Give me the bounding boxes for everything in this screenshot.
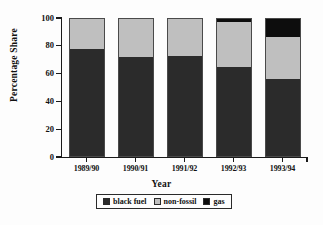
bar-1990-91 [118,18,154,157]
x-axis-tick [233,157,234,162]
y-axis-tick-label: 100 [12,14,54,23]
bar-segment-blackfuel [217,67,251,156]
bar-segment-nonfossil [70,19,104,49]
y-axis-title: Percentage Share [9,5,19,125]
bar-segment-nonfossil [119,19,153,57]
legend-label: gas [213,198,224,206]
y-axis-tick-label: 80 [12,41,54,50]
y-axis-tick-label: 40 [12,97,54,106]
bar-segment-nonfossil [217,22,251,67]
y-axis-tick-label: 60 [12,69,54,78]
bar-segment-blackfuel [70,49,104,156]
bar-segment-blackfuel [119,57,153,156]
legend-label: non-fossil [164,198,197,206]
x-axis-title: Year [0,179,323,189]
bar-segment-blackfuel [168,56,202,156]
legend-swatch-black-fuel [103,198,110,205]
bar-segment-blackfuel [266,79,300,156]
legend-swatch-non-fossil [154,198,161,205]
bar-1989-90 [69,18,105,157]
bar-1991-92 [167,18,203,157]
y-axis-tick-label: 20 [12,125,54,134]
bar-segment-gas [266,19,300,37]
legend-item-black-fuel: black fuel [103,198,147,206]
legend-label: black fuel [113,198,147,206]
chart-legend: black fuelnon-fossilgas [96,194,232,209]
chart-figure: Percentage Share 020406080100 1989/90199… [0,0,323,225]
x-axis-tick [86,157,87,162]
legend-item-non-fossil: non-fossil [154,198,197,206]
x-axis-tick-end [306,157,307,162]
x-axis-tick [184,157,185,162]
x-axis-tick-label: 1993/94 [253,165,313,173]
legend-swatch-gas [203,198,210,205]
legend-item-gas: gas [203,198,224,206]
bar-segment-nonfossil [168,19,202,56]
bar-1993-94 [265,18,301,157]
bar-segment-nonfossil [266,37,300,79]
y-axis-tick-label: 0 [12,153,54,162]
x-axis-tick [135,157,136,162]
bar-1992-93 [216,18,252,157]
x-axis-tick [282,157,283,162]
plot-area [62,18,307,157]
